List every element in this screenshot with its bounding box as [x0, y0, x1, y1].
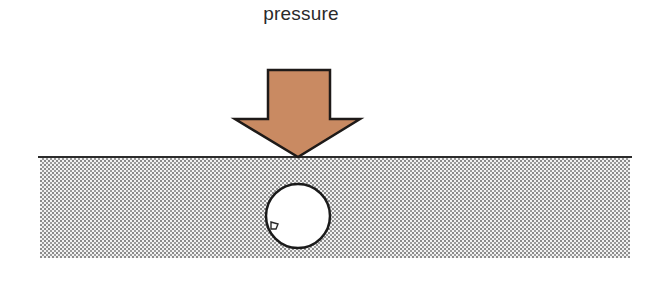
pressure-diagram — [0, 0, 649, 281]
embedded-vessel-circle — [266, 184, 330, 248]
substrate-stipple — [40, 158, 630, 258]
pressure-arrow-icon — [235, 70, 360, 157]
